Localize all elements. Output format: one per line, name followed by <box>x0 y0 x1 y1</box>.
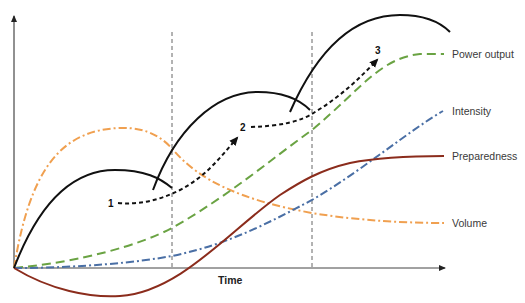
periodization-diagram: 1 2 3 Power output Intensity Preparednes… <box>0 0 525 303</box>
fitness-arc-2 <box>153 92 310 190</box>
label-intensity: Intensity <box>452 105 492 117</box>
marker-3: 3 <box>375 45 381 56</box>
label-preparedness: Preparedness <box>452 150 517 162</box>
fitness-arcs <box>14 15 450 268</box>
fitness-arc-3 <box>290 15 450 112</box>
label-power-output: Power output <box>452 48 514 60</box>
x-axis-label: Time <box>218 274 242 286</box>
marker-2: 2 <box>240 122 246 133</box>
label-volume: Volume <box>452 217 487 229</box>
phase-dividers <box>172 32 312 268</box>
marker-1: 1 <box>108 198 114 209</box>
